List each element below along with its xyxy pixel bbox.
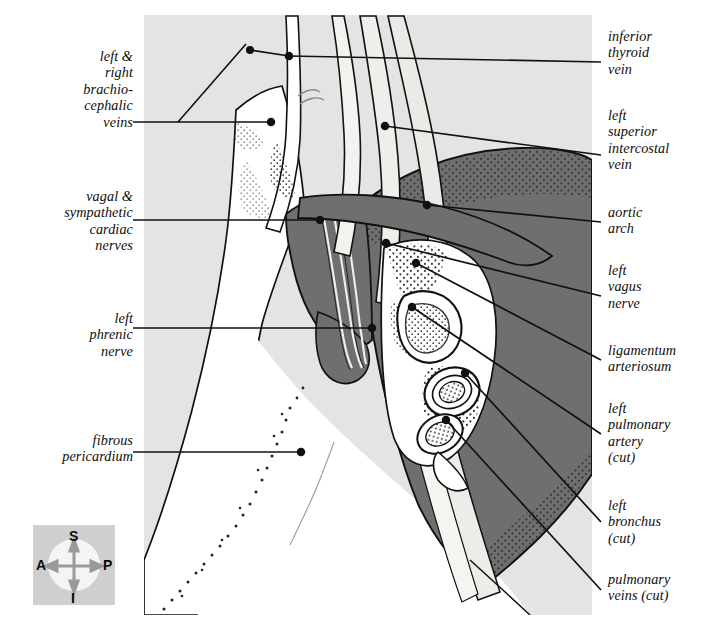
label-left-pulmonary-artery-cut: left pulmonary artery (cut) — [608, 400, 670, 466]
label-vagal-sympathetic-cardiac-nerves: vagal & sympathetic cardiac nerves — [64, 188, 133, 254]
orientation-letter-inferior: I — [71, 591, 75, 605]
label-left-superior-intercostal-vein: left superior intercostal vein — [608, 107, 669, 173]
label-left-phrenic-nerve: left phrenic nerve — [89, 310, 133, 359]
label-left-bronchus-cut: left bronchus (cut) — [608, 497, 661, 546]
label-inferior-thyroid-vein: inferior thyroid vein — [608, 28, 652, 77]
illustration-panel — [144, 15, 592, 615]
orientation-letter-anterior: A — [36, 558, 46, 572]
orientation-letter-superior: S — [69, 529, 78, 543]
label-ligamentum-arteriosum: ligamentum arteriosum — [608, 342, 676, 375]
label-fibrous-pericardium: fibrous pericardium — [62, 432, 133, 465]
left-pulmonary-artery-cut-shape — [397, 291, 461, 363]
label-aortic-arch: aortic arch — [608, 204, 643, 237]
label-left-vagus-nerve: left vagus nerve — [608, 262, 642, 311]
orientation-letter-posterior: P — [103, 558, 112, 572]
label-pulmonary-veins-cut: pulmonary veins (cut) — [608, 571, 670, 604]
label-brachiocephalic-veins: left & right brachio- cephalic veins — [83, 48, 133, 130]
